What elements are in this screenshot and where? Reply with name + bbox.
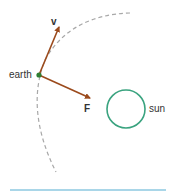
orbit-diagram: v earth F sun [0, 0, 177, 194]
sun-label: sun [149, 103, 165, 114]
force-vector [39, 75, 90, 98]
earth-label: earth [9, 69, 32, 80]
velocity-label: v [51, 16, 57, 27]
earth-dot [36, 72, 41, 77]
velocity-vector [39, 27, 59, 75]
sun-circle [107, 90, 145, 128]
force-label: F [84, 103, 90, 114]
